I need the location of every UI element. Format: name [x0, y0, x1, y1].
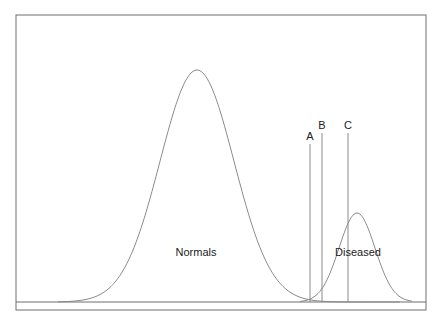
- cutoff-label-a: A: [306, 130, 314, 142]
- diseased-label: Diseased: [335, 246, 381, 258]
- plot-frame: [16, 15, 426, 310]
- normals-label: Normals: [176, 246, 217, 258]
- cutoff-label-c: C: [344, 119, 352, 131]
- cutoff-label-b: B: [318, 119, 325, 131]
- distribution-diagram: A B C Normals Diseased: [0, 0, 443, 322]
- normals-curve: [58, 70, 400, 302]
